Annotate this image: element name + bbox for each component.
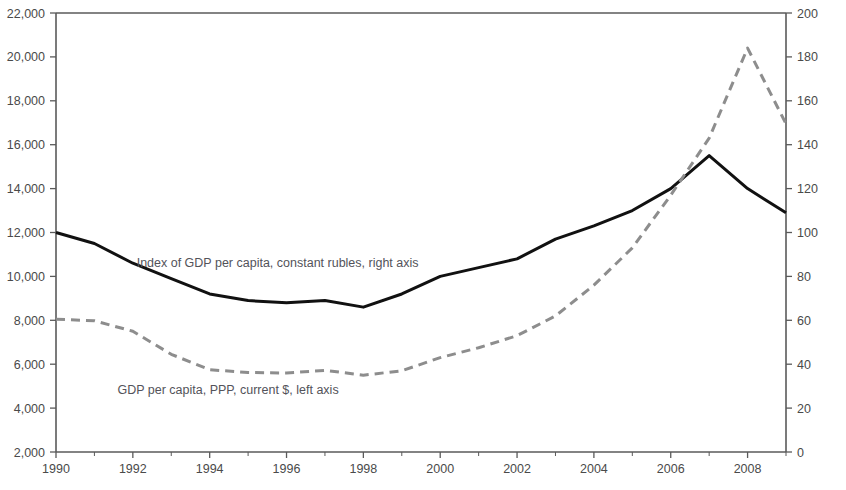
- left-tick-label: 2,000: [14, 446, 45, 460]
- left-tick-label: 6,000: [14, 358, 45, 372]
- chart-container: 2,0004,0006,0008,00010,00012,00014,00016…: [0, 0, 846, 490]
- right-tick-label: 40: [797, 358, 811, 372]
- series-line-dashed-gdp-ppp: [56, 48, 786, 375]
- right-tick-label: 0: [797, 446, 804, 460]
- x-tick-label: 1992: [119, 462, 147, 476]
- bottom-axis-ticks: 1990199219941996199820002002200420062008: [42, 452, 786, 476]
- series-annotation-index-gdp: Index of GDP per capita, constant rubles…: [137, 256, 419, 270]
- left-tick-label: 18,000: [7, 94, 45, 108]
- right-tick-label: 20: [797, 402, 811, 416]
- x-tick-label: 2002: [503, 462, 531, 476]
- x-tick-label: 1990: [42, 462, 70, 476]
- right-tick-label: 140: [797, 138, 818, 152]
- right-tick-label: 200: [797, 7, 818, 21]
- right-tick-label: 120: [797, 182, 818, 196]
- x-tick-label: 2004: [580, 462, 608, 476]
- chart-canvas: 2,0004,0006,0008,00010,00012,00014,00016…: [0, 0, 846, 490]
- series-layer: [56, 48, 786, 375]
- right-tick-label: 60: [797, 314, 811, 328]
- x-tick-label: 1998: [349, 462, 377, 476]
- right-tick-label: 180: [797, 50, 818, 64]
- x-tick-label: 2008: [734, 462, 762, 476]
- left-axis-ticks: 2,0004,0006,0008,00010,00012,00014,00016…: [7, 7, 56, 460]
- right-tick-label: 100: [797, 226, 818, 240]
- series-annotation-gdp-ppp: GDP per capita, PPP, current $, left axi…: [117, 383, 338, 397]
- left-tick-label: 10,000: [7, 270, 45, 284]
- left-tick-label: 20,000: [7, 50, 45, 64]
- x-tick-label: 1996: [273, 462, 301, 476]
- left-tick-label: 8,000: [14, 314, 45, 328]
- x-tick-label: 2000: [426, 462, 454, 476]
- left-tick-label: 14,000: [7, 182, 45, 196]
- right-axis-ticks: 020406080100120140160180200: [786, 7, 818, 460]
- right-tick-label: 160: [797, 94, 818, 108]
- series-line-solid-index-gdp: [56, 156, 786, 307]
- left-tick-label: 16,000: [7, 138, 45, 152]
- x-tick-label: 2006: [657, 462, 685, 476]
- left-tick-label: 12,000: [7, 226, 45, 240]
- left-tick-label: 22,000: [7, 7, 45, 21]
- right-tick-label: 80: [797, 270, 811, 284]
- left-tick-label: 4,000: [14, 402, 45, 416]
- x-tick-label: 1994: [196, 462, 224, 476]
